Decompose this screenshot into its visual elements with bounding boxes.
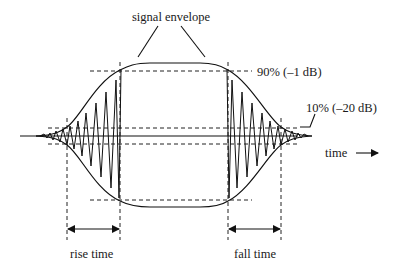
level-10-pointer (300, 114, 315, 127)
rise-time-label: rise time (70, 247, 114, 261)
envelope-pointer-left (138, 26, 158, 57)
envelope-pointer-right (181, 26, 205, 57)
level-90-label: 90% (–1 dB) (257, 65, 322, 79)
level-10-label: 10% (–20 dB) (306, 101, 377, 115)
signal-envelope-label: signal envelope (132, 10, 211, 24)
fall-time-label: fall time (234, 247, 276, 261)
envelope-diagram: signal envelope 90% (–1 dB) 10% (–20 dB)… (0, 0, 395, 272)
time-axis-label: time (325, 146, 348, 160)
signal-envelope-bottom (36, 136, 312, 207)
